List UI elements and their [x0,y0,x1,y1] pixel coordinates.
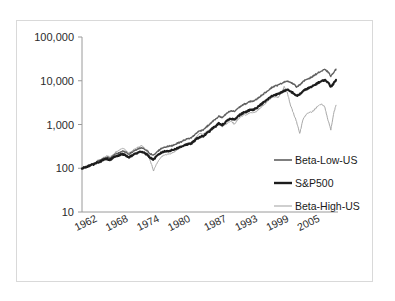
y-tick-label: 1,000 [46,119,74,131]
y-axis-ticks: 100,00010,0001,00010010 [34,31,82,218]
x-tick-label: 2005 [295,212,321,233]
legend-label: Beta-High-US [295,200,360,212]
y-tick-label: 100,000 [34,31,74,43]
y-tick-label: 100 [56,162,74,174]
y-tick-label: 10,000 [40,75,74,87]
x-tick-label: 1993 [233,212,259,233]
x-tick-label: 1974 [135,212,161,233]
chart-plot: 100,00010,0001,00010010 1962196819741980… [0,0,395,301]
x-tick-label: 1980 [166,212,192,233]
chart-legend: Beta-Low-USS&P500Beta-High-US [274,154,360,212]
x-tick-label: 1999 [264,212,290,233]
x-tick-label: 1968 [103,212,129,233]
figure-container: -- - 100,00010,0001,00010010 19621968197… [0,0,395,301]
x-axis-ticks: 19621968197419801987199319992005 [72,212,321,233]
x-tick-label: 1987 [202,212,228,233]
y-tick-label: 10 [62,206,74,218]
legend-label: S&P500 [295,177,334,189]
x-tick-label: 1962 [72,212,98,233]
legend-label: Beta-Low-US [295,154,357,166]
